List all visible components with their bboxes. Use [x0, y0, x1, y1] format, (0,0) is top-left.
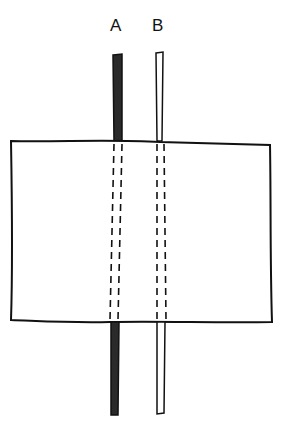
strip-a-bottom — [111, 322, 119, 415]
strip-b-bottom — [157, 322, 165, 414]
strips-through-sheet-diagram — [0, 0, 281, 435]
sheet-rectangle — [11, 141, 272, 323]
strip-a-top — [113, 54, 122, 141]
strip-b-top — [156, 52, 163, 141]
